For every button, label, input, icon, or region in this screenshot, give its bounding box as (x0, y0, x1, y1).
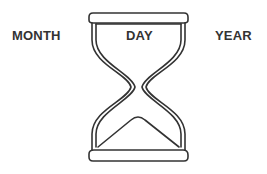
sand-pile (98, 117, 179, 147)
year-label: YEAR (215, 29, 252, 42)
hourglass-bottom-cap (89, 150, 188, 161)
day-label: DAY (126, 29, 153, 42)
hourglass-top-cap (89, 13, 188, 23)
month-label: MONTH (12, 29, 61, 42)
hourglass-icon (0, 0, 267, 174)
